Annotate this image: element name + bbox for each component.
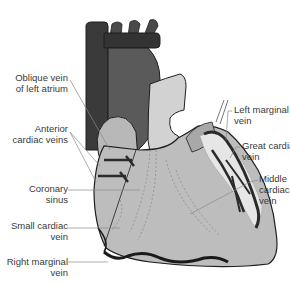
aortic-arch [104, 33, 160, 48]
left-marginal-vessel [216, 100, 228, 124]
label-line: vein [259, 195, 290, 206]
label-coronary-sinus: Coronary sinus [0, 183, 68, 205]
label-line: vein [0, 267, 68, 278]
label-great-cardiac-vein: Great cardiac vein [242, 140, 290, 162]
label-line: of left atrium [0, 83, 68, 94]
label-line: Oblique vein [0, 72, 68, 83]
label-anterior-cardiac-veins: Anterior cardiac veins [0, 123, 68, 145]
label-line: sinus [0, 194, 68, 205]
cardiac-veins-diagram: Oblique vein of left atrium Anterior car… [0, 0, 290, 284]
label-oblique-vein: Oblique vein of left atrium [0, 72, 68, 94]
label-right-marginal-vein: Right marginal vein [0, 256, 68, 278]
label-line: Right marginal [0, 256, 68, 267]
label-line: vein [242, 151, 290, 162]
label-line: Anterior [0, 123, 68, 134]
label-middle-cardiac-vein: Middle cardiac vein [259, 173, 290, 206]
label-line: Great cardiac [242, 140, 290, 151]
label-small-cardiac-vein: Small cardiac vein [0, 220, 68, 242]
label-line: cardiac [259, 184, 290, 195]
label-left-marginal-vein: Left marginal vein [234, 104, 289, 126]
label-line: cardiac veins [0, 134, 68, 145]
label-line: Middle [259, 173, 290, 184]
label-line: Left marginal [234, 104, 289, 115]
label-line: Coronary [0, 183, 68, 194]
label-line: Small cardiac [0, 220, 68, 231]
label-line: vein [0, 231, 68, 242]
label-line: vein [234, 115, 289, 126]
